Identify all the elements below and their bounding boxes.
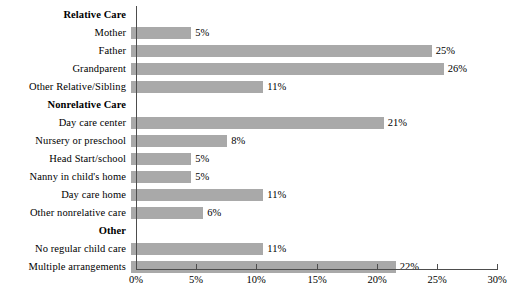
x-axis-tick [256, 264, 257, 270]
bar-plot-cell: 5% [131, 150, 515, 168]
bar-row-label: Father [0, 45, 131, 57]
x-axis-tick-label: 15% [307, 274, 326, 286]
bar-plot-cell: 8% [131, 132, 515, 150]
x-axis-tick [437, 264, 438, 270]
bar-row-label: Day care center [0, 117, 131, 129]
bar-row: Day care home11% [0, 186, 515, 204]
bar-value-label: 26% [444, 63, 467, 75]
bar-value-label: 11% [263, 81, 286, 93]
y-axis-line [136, 6, 137, 269]
bar-value-label: 22% [396, 261, 419, 273]
bar-value-label: 11% [263, 189, 286, 201]
bar-row: Grandparent26% [0, 60, 515, 78]
bar-chart: Relative CareMother5%Father25%Grandparen… [0, 0, 515, 296]
bar [131, 27, 191, 39]
bar-row: Other Relative/Sibling11% [0, 78, 515, 96]
bar-row-label: Multiple arrangements [0, 261, 131, 273]
bar-row-label: Mother [0, 27, 131, 39]
x-axis-tick [317, 264, 318, 270]
bar [131, 117, 384, 129]
x-axis-tick-label: 5% [189, 274, 203, 286]
bar-value-label: 11% [263, 243, 286, 255]
bar-plot-cell: 11% [131, 240, 515, 258]
bar-row: Head Start/school5% [0, 150, 515, 168]
x-axis-tick [196, 264, 197, 270]
bar-value-label: 5% [191, 153, 209, 165]
bar-plot-cell: 21% [131, 114, 515, 132]
bar-row-label: Other Relative/Sibling [0, 81, 131, 93]
bar-row-label: Head Start/school [0, 153, 131, 165]
bar [131, 45, 432, 57]
bar-plot-cell: 6% [131, 204, 515, 222]
x-axis-tick [377, 264, 378, 270]
bar-row-label: Day care home [0, 189, 131, 201]
bar-plot-cell [131, 96, 515, 114]
category-header-row: Nonrelative Care [0, 96, 515, 114]
bar-row: Father25% [0, 42, 515, 60]
x-axis-tick [497, 264, 498, 270]
bar-row-label: Nursery or preschool [0, 135, 131, 147]
bar-value-label: 5% [191, 171, 209, 183]
bar [131, 243, 263, 255]
bar-plot-cell [131, 222, 515, 240]
bar-row-label: Other nonrelative care [0, 207, 131, 219]
x-axis-tick-label: 10% [246, 274, 265, 286]
bar-row: Other nonrelative care6% [0, 204, 515, 222]
x-axis-tick-label: 25% [427, 274, 446, 286]
bar [131, 261, 396, 273]
bar [131, 63, 444, 75]
bar-row-label: Grandparent [0, 63, 131, 75]
bar-plot-cell: 11% [131, 186, 515, 204]
bar-value-label: 6% [203, 207, 221, 219]
bar-value-label: 5% [191, 27, 209, 39]
bar [131, 189, 263, 201]
bar-plot-cell: 25% [131, 42, 515, 60]
x-axis-tick-label: 20% [367, 274, 386, 286]
bar-value-label: 8% [227, 135, 245, 147]
category-header-row: Other [0, 222, 515, 240]
bar-row-label: No regular child care [0, 243, 131, 255]
x-axis-tick-label: 0% [129, 274, 143, 286]
bar-value-label: 21% [384, 117, 407, 129]
bar-plot-cell: 11% [131, 78, 515, 96]
bar-plot-cell: 5% [131, 24, 515, 42]
bar-row-label: Nanny in child's home [0, 171, 131, 183]
bar [131, 81, 263, 93]
bar-plot-cell: 26% [131, 60, 515, 78]
chart-rows: Relative CareMother5%Father25%Grandparen… [0, 6, 515, 276]
bar [131, 207, 203, 219]
category-header-label: Relative Care [0, 9, 131, 21]
bar-row: Nursery or preschool8% [0, 132, 515, 150]
bar-value-label: 25% [432, 45, 455, 57]
bar [131, 135, 227, 147]
x-axis-tick [136, 264, 137, 270]
bar-plot-cell: 5% [131, 168, 515, 186]
bar-row: Mother5% [0, 24, 515, 42]
category-header-label: Nonrelative Care [0, 99, 131, 111]
bar-row: Day care center21% [0, 114, 515, 132]
x-axis-tick-label: 30% [487, 274, 506, 286]
bar-plot-cell [131, 6, 515, 24]
bar [131, 153, 191, 165]
category-header-row: Relative Care [0, 6, 515, 24]
category-header-label: Other [0, 225, 131, 237]
bar-row: No regular child care11% [0, 240, 515, 258]
bar-row: Nanny in child's home5% [0, 168, 515, 186]
bar [131, 171, 191, 183]
